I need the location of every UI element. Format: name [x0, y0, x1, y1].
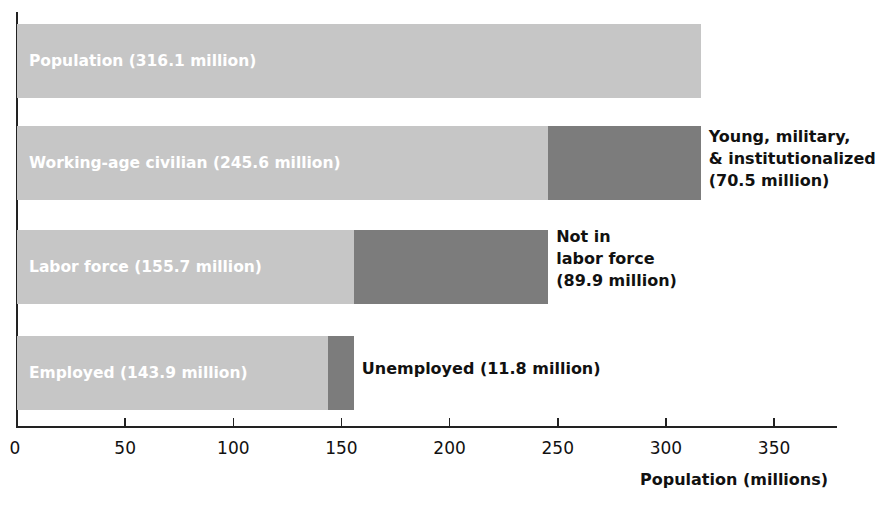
- x-tick-label: 200: [433, 438, 465, 458]
- x-tick-label: 250: [542, 438, 574, 458]
- bar-label: Employed (143.9 million): [29, 364, 248, 382]
- bar-population: Population (316.1 million): [17, 24, 701, 98]
- bar-labor-force: Labor force (155.7 million): [17, 230, 548, 304]
- x-tick: [665, 418, 667, 427]
- bar-segment-excluded: [328, 336, 354, 410]
- x-tick: [449, 418, 451, 427]
- x-tick: [124, 418, 126, 427]
- bar-segment-excluded: [548, 126, 700, 200]
- x-axis-line: [16, 426, 837, 428]
- bar-annotation: Young, military, & institutionalized (70…: [709, 126, 876, 192]
- x-tick: [233, 418, 235, 427]
- x-tick-label: 150: [325, 438, 357, 458]
- x-tick: [557, 418, 559, 427]
- x-tick-label: 50: [114, 438, 136, 458]
- bar-label: Working-age civilian (245.6 million): [29, 154, 341, 172]
- bar-employed: Employed (143.9 million): [17, 336, 354, 410]
- x-tick: [773, 418, 775, 427]
- x-tick: [341, 418, 343, 427]
- bar-segment-excluded: [354, 230, 548, 304]
- bar-working-age-civilian: Working-age civilian (245.6 million): [17, 126, 701, 200]
- x-tick-label: 300: [650, 438, 682, 458]
- x-axis-title: Population (millions): [640, 470, 828, 489]
- bar-annotation: Not in labor force (89.9 million): [556, 226, 677, 292]
- bar-label: Labor force (155.7 million): [29, 258, 262, 276]
- x-tick-label: 100: [217, 438, 249, 458]
- x-tick-label: 350: [758, 438, 790, 458]
- bar-annotation: Unemployed (11.8 million): [362, 358, 601, 380]
- labor-force-chart: 050100150200250300350 Population (316.1 …: [0, 0, 882, 511]
- bar-label: Population (316.1 million): [29, 52, 256, 70]
- x-tick-label: 0: [10, 438, 21, 458]
